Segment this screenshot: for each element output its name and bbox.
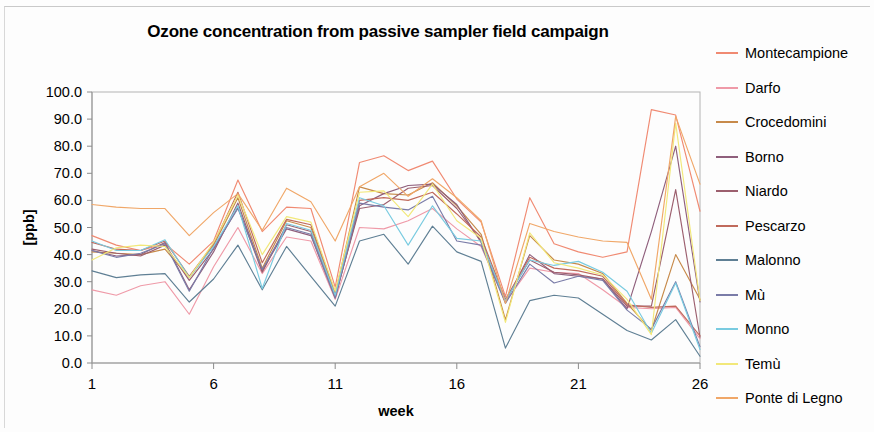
y-axis-tick-label: 50.0 <box>54 220 82 236</box>
x-axis-tick-label: 6 <box>209 375 217 392</box>
legend-line-swatch-icon <box>716 87 738 89</box>
y-axis-tick-label: 30.0 <box>54 274 82 290</box>
chart-legend: MontecampioneDarfoCrocedominiBornoNiardo… <box>716 36 874 416</box>
legend-line-swatch-icon <box>716 328 738 330</box>
series-line-borno <box>92 146 700 309</box>
series-line-pescarzo <box>92 192 700 336</box>
legend-line-swatch-icon <box>716 397 738 399</box>
legend-item[interactable]: Niardo <box>716 174 874 209</box>
x-axis-tick-label: 21 <box>570 375 587 392</box>
legend-item-label: Montecampione <box>745 45 848 61</box>
legend-line-swatch-icon <box>716 156 738 158</box>
y-axis-tick-label: 90.0 <box>54 111 82 127</box>
x-axis-title: week <box>377 403 414 419</box>
legend-line-swatch-icon <box>716 121 738 123</box>
legend-item[interactable]: Monno <box>716 312 874 347</box>
legend-item-label: Mù <box>745 287 765 303</box>
y-axis-tick-label: 100.0 <box>46 84 82 100</box>
series-line-crocedomini <box>92 183 700 331</box>
plot-area-border <box>92 92 700 363</box>
series-line-malonno <box>92 226 700 356</box>
y-axis-title: [ppb] <box>21 209 37 245</box>
legend-line-swatch-icon <box>716 52 738 54</box>
legend-item-label: Temù <box>745 356 780 372</box>
legend-item[interactable]: Darfo <box>716 71 874 106</box>
legend-item[interactable]: Temù <box>716 347 874 382</box>
y-axis-tick-label: 60.0 <box>54 192 82 208</box>
legend-item-label: Darfo <box>745 80 780 96</box>
legend-item[interactable]: Montecampione <box>716 36 874 71</box>
y-axis-tick-label: 80.0 <box>54 138 82 154</box>
y-axis-tick-label: 70.0 <box>54 165 82 181</box>
series-line-monno <box>92 198 700 350</box>
legend-item[interactable]: Crocedomini <box>716 105 874 140</box>
x-axis-tick-label: 11 <box>327 375 343 392</box>
legend-item-label: Borno <box>745 149 784 165</box>
series-line-ponte-di-legno <box>92 116 700 303</box>
legend-line-swatch-icon <box>716 190 738 192</box>
legend-item[interactable]: Malonno <box>716 243 874 278</box>
legend-line-swatch-icon <box>716 225 738 227</box>
y-axis-tick-label: 10.0 <box>54 328 82 344</box>
legend-item-label: Niardo <box>745 183 788 199</box>
legend-item-label: Malonno <box>745 252 801 268</box>
legend-item-label: Crocedomini <box>745 114 826 130</box>
x-axis-tick-label: 16 <box>448 375 465 392</box>
legend-item[interactable]: Borno <box>716 140 874 175</box>
x-axis-tick-label: 26 <box>692 375 709 392</box>
chart-figure: Ozone concentration from passive sampler… <box>0 0 874 432</box>
y-axis-tick-label: 0.0 <box>62 355 82 371</box>
legend-line-swatch-icon <box>716 259 738 261</box>
y-axis-tick-label: 40.0 <box>54 247 82 263</box>
legend-item-label: Ponte di Legno <box>745 390 843 406</box>
x-axis-tick-label: 1 <box>88 375 96 392</box>
legend-line-swatch-icon <box>716 294 738 296</box>
legend-item[interactable]: Mù <box>716 278 874 313</box>
legend-item-label: Monno <box>745 321 789 337</box>
legend-line-swatch-icon <box>716 363 738 365</box>
legend-item[interactable]: Ponte di Legno <box>716 381 874 416</box>
legend-item[interactable]: Pescarzo <box>716 209 874 244</box>
legend-item-label: Pescarzo <box>745 218 805 234</box>
y-axis-tick-label: 20.0 <box>54 301 82 317</box>
